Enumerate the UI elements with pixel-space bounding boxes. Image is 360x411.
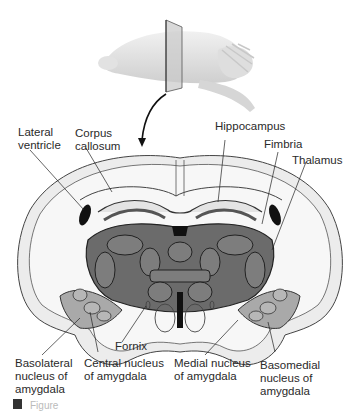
label-thalamus: Thalamus [292,154,343,167]
figure-caption: Figure [30,400,58,411]
label-medial-nucleus: Medial nucleus of amygdala [174,357,251,383]
label-central-nucleus: Central nucleus of amygdala [84,357,164,383]
label-fornix: Fornix [115,340,147,353]
coronal-section [18,156,343,365]
label-fimbria: Fimbria [264,138,302,151]
label-corpus-callosum: Corpus callosum [75,127,120,153]
label-basolateral-nucleus: Basolateral nucleus of amygdala [15,357,73,396]
caption-marker [13,399,22,409]
label-hippocampus: Hippocampus [215,120,285,133]
label-basomedial-nucleus: Basomedial nucleus of amygdala [260,359,320,398]
label-lateral-ventricle: Lateral ventricle [18,126,61,152]
